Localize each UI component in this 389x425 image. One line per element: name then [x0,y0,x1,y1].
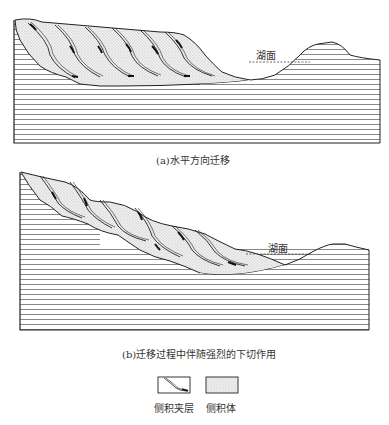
diagram-canvas [0,0,389,425]
panel-b-water-label: 湖面 [268,240,288,255]
legend [158,377,238,393]
panel-a-caption: (a)水平方向迁移 [156,152,230,167]
legend-label-body: 侧积体 [206,400,236,415]
panel-b-cross-section [20,172,369,330]
panel-a-right-bank [200,42,380,143]
panel-a-cross-section [14,19,380,143]
panel-b-caption: (b)迁移过程中伴随强烈的下切作用 [122,346,276,361]
panel-a-water-label: 湖面 [256,47,276,62]
legend-label-interlayer: 侧积夹层 [154,400,194,415]
legend-swatch-body [206,377,238,393]
